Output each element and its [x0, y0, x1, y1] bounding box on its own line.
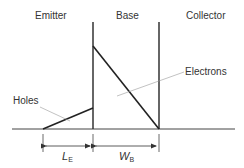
- electrons-label: Electrons: [185, 66, 227, 77]
- region-label-collector: Collector: [186, 10, 226, 21]
- base-width-label: WB: [119, 150, 134, 163]
- region-label-base: Base: [116, 10, 139, 21]
- region-label-emitter: Emitter: [35, 10, 67, 21]
- holes-label: Holes: [13, 95, 39, 106]
- carrier-profile-diagram: Emitter Base Collector Electrons Holes L…: [0, 0, 244, 168]
- emitter-length-label: LE: [62, 150, 73, 163]
- electrons-leader-line: [117, 72, 184, 96]
- electron-profile-line: [93, 46, 159, 129]
- holes-leader-line: [40, 107, 70, 121]
- hole-profile-line: [43, 108, 93, 129]
